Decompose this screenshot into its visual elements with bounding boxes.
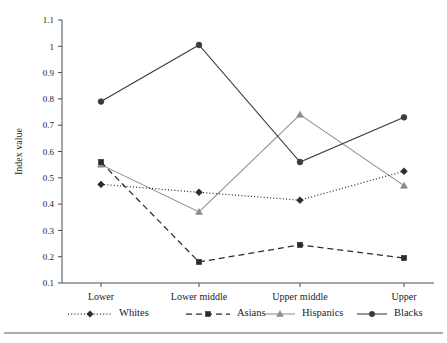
- legend-label: Blacks: [394, 307, 423, 318]
- marker-diamond: [401, 168, 408, 175]
- marker-square: [401, 255, 406, 260]
- marker-circle: [98, 99, 104, 105]
- legend: WhitesAsiansHispanicsBlacks: [68, 307, 423, 318]
- legend-label: Whites: [119, 307, 149, 318]
- legend-item-blacks[interactable]: Blacks: [357, 307, 423, 318]
- legend-item-whites[interactable]: Whites: [68, 307, 149, 318]
- marker-triangle: [401, 182, 408, 188]
- figure-container: 0.10.20.30.40.50.60.70.80.911.1Index val…: [0, 0, 447, 343]
- x-tick-label: Upper: [392, 291, 418, 302]
- marker-square: [297, 242, 302, 247]
- y-tick-label: 0.8: [43, 94, 55, 104]
- y-tick-label: 0.2: [43, 252, 54, 262]
- x-tick-label: Upper middle: [272, 291, 328, 302]
- marker-diamond: [196, 189, 203, 196]
- legend-item-asians[interactable]: Asians: [186, 307, 266, 318]
- y-tick-label: 0.6: [43, 147, 55, 157]
- y-axis-title: Index value: [13, 127, 24, 174]
- series-blacks: [98, 42, 407, 165]
- marker-square: [196, 259, 201, 264]
- marker-square: [98, 159, 103, 164]
- series-line: [101, 115, 404, 212]
- series-hispanics: [98, 111, 408, 214]
- marker-diamond: [98, 181, 105, 188]
- series-line: [101, 162, 404, 262]
- y-tick-label: 0.1: [43, 278, 54, 288]
- y-tick-label: 0.3: [43, 226, 55, 236]
- marker-circle: [369, 311, 375, 317]
- y-tick-label: 0.4: [43, 199, 55, 209]
- y-tick-label: 0.7: [43, 120, 55, 130]
- x-tick-label: Lower middle: [171, 291, 228, 302]
- axes-group: [62, 20, 434, 283]
- series-line: [101, 171, 404, 200]
- line-chart: 0.10.20.30.40.50.60.70.80.911.1Index val…: [0, 0, 447, 343]
- y-tick-label: 1.1: [43, 15, 54, 25]
- legend-item-hispanics[interactable]: Hispanics: [265, 307, 343, 318]
- series-asians: [98, 159, 406, 264]
- y-axis-ticks: 0.10.20.30.40.50.60.70.80.911.1: [43, 15, 62, 288]
- marker-circle: [401, 114, 407, 120]
- marker-circle: [196, 42, 202, 48]
- marker-diamond: [297, 197, 304, 204]
- y-tick-label: 0.9: [43, 68, 55, 78]
- marker-diamond: [87, 311, 93, 317]
- marker-triangle: [297, 111, 304, 117]
- series-line: [101, 45, 404, 162]
- legend-label: Hispanics: [302, 307, 343, 318]
- legend-label: Asians: [237, 307, 266, 318]
- y-tick-label: 1: [50, 42, 55, 52]
- marker-square: [206, 312, 211, 317]
- x-tick-label: Lower: [88, 291, 115, 302]
- y-tick-label: 0.5: [43, 173, 55, 183]
- x-axis-ticks: LowerLower middleUpper middleUpper: [88, 283, 417, 302]
- marker-circle: [297, 159, 303, 165]
